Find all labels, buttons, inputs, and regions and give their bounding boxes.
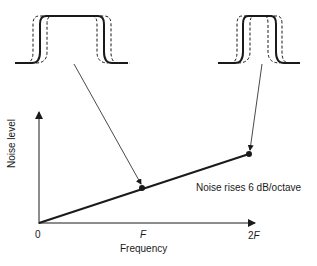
filter-response-right <box>218 16 300 63</box>
x-tick-2F: 2F <box>248 230 260 241</box>
point-F <box>139 185 145 191</box>
filter-right-dashed-inner <box>238 16 280 63</box>
y-axis-label: Noise level <box>6 119 17 168</box>
filter-left-dashed-outer <box>26 16 130 63</box>
point-2F <box>246 151 252 157</box>
x-tick-0: 0 <box>35 229 41 240</box>
diagram-canvas <box>0 0 317 266</box>
filter-right-dashed-outer <box>230 16 300 63</box>
x-tick-2F-var: F <box>254 230 260 241</box>
pointer-arrow-to-2F <box>250 64 262 150</box>
filter-response-left <box>15 16 130 63</box>
slope-annotation: Noise rises 6 dB/octave <box>196 182 301 193</box>
filter-left-dashed-inner <box>36 16 108 63</box>
pointer-arrow-to-F <box>74 64 141 184</box>
filter-right-solid <box>218 16 300 63</box>
x-tick-F: F <box>140 229 146 240</box>
x-axis-label: Frequency <box>120 243 167 254</box>
